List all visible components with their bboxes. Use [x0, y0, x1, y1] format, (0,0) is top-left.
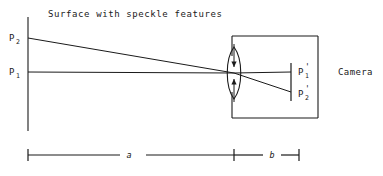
point-p2-prime-subscript: 2 [305, 94, 309, 102]
point-p2-subscript: 2 [16, 38, 20, 46]
lens-arrow-up [231, 79, 236, 85]
camera-label: Camera [338, 67, 373, 77]
optical-diagram-figure: Surface with speckle features P 2 P 1 P … [0, 0, 383, 176]
ray-p2-image-side [234, 73, 291, 92]
point-p2-prime-base: P [298, 89, 304, 99]
point-p2-prime-mark: ' [305, 85, 310, 94]
label-point-p2-prime: P 2 ' [298, 85, 310, 102]
label-point-p1: P 1 [9, 67, 20, 80]
dimension-label-a: a [126, 150, 131, 160]
ray-p2-object-side [28, 38, 234, 73]
point-p1-prime-mark: ' [305, 63, 310, 72]
point-p1-subscript: 1 [16, 72, 20, 80]
point-p1-prime-base: P [298, 67, 304, 77]
dimension-label-b: b [269, 150, 274, 160]
point-p2-base: P [9, 33, 15, 43]
label-point-p1-prime: P 1 ' [298, 63, 310, 80]
ray-p1-image-side [234, 72, 291, 73]
point-p1-prime-subscript: 1 [305, 72, 309, 80]
figure-title: Surface with speckle features [48, 9, 223, 19]
point-p1-base: P [9, 67, 15, 77]
dimension-bar: a b [28, 149, 299, 161]
ray-p1-object-side [28, 72, 234, 73]
lens-arrow-down [231, 62, 236, 68]
diagram-canvas: Surface with speckle features P 2 P 1 P … [0, 0, 383, 176]
label-point-p2: P 2 [9, 33, 20, 46]
